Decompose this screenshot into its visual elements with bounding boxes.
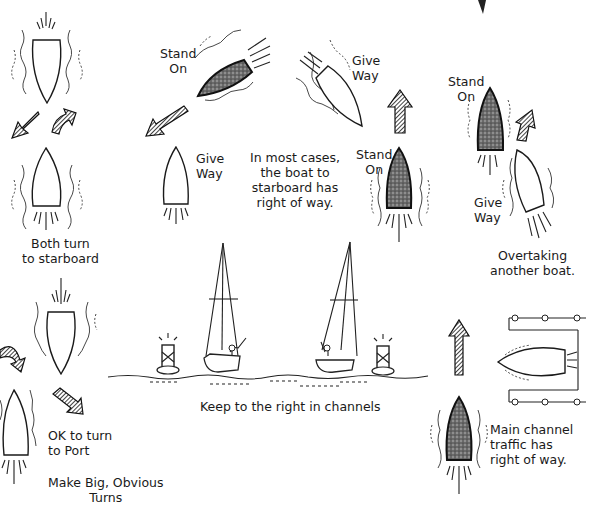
water-line — [108, 375, 428, 379]
boat-give-way-overtaking-icon — [503, 150, 554, 238]
boat-own-icon — [12, 148, 83, 230]
caption-line: right of way. — [490, 452, 573, 467]
give-way-label: Give Way — [196, 151, 224, 181]
give-way-label: Give Way — [474, 195, 502, 225]
sailboat-right-icon — [316, 242, 358, 372]
overtaking-caption: Overtaking another boat. — [490, 248, 575, 278]
head-on-caption: Both turn to starboard — [22, 236, 99, 266]
caption-line: the boat to — [250, 165, 340, 180]
caption-line: Turns — [48, 490, 164, 505]
give-way-label: Give Way — [352, 53, 380, 83]
caption-line: right of way. — [250, 195, 340, 210]
stand-on-label: Stand On — [448, 74, 484, 104]
buoy-right-icon — [372, 334, 394, 375]
pass-arrow-icon — [516, 110, 535, 141]
caption-line: starboard has — [250, 180, 340, 195]
turn-arrow-icon — [52, 109, 76, 134]
turn-arrow-icon — [12, 112, 39, 138]
boat-own-port-icon — [0, 390, 36, 484]
stand-on-label: Stand On — [160, 46, 196, 76]
port-turn-caption: OK to turn to Port — [48, 428, 112, 458]
label-line: Stand — [160, 46, 196, 61]
boat-give-way-left-icon — [164, 147, 189, 224]
caption-line: Both turn — [22, 236, 99, 251]
boat-stand-on-icon — [195, 30, 270, 101]
channel-caption: Keep to the right in channels — [200, 399, 381, 414]
label-line: On — [160, 61, 196, 76]
label-line: Give — [352, 53, 380, 68]
label-line: Way — [352, 68, 380, 83]
label-line: On — [356, 162, 392, 177]
caption-line: OK to turn — [48, 428, 112, 443]
turn-port-arrow-icon — [53, 388, 83, 414]
turn-left-arrow-icon — [0, 347, 25, 372]
caption-line: to starboard — [22, 251, 99, 266]
main-channel-panel — [431, 315, 586, 494]
main-channel-caption: Main channel traffic has right of way. — [490, 422, 573, 467]
label-line: On — [448, 89, 484, 104]
boat-oncoming-icon — [12, 12, 83, 103]
caption-line: In most cases, — [250, 150, 340, 165]
boat-leaving-dock-icon — [498, 345, 577, 380]
crossing-caption: In most cases, the boat to starboard has… — [250, 150, 340, 210]
partial-arrow-icon — [478, 0, 486, 14]
caption-line: to Port — [48, 443, 112, 458]
label-line: Stand — [356, 147, 392, 162]
caption-line: Make Big, Obvious — [48, 475, 164, 490]
boat-main-channel-icon — [431, 397, 488, 494]
caption-line: traffic has — [490, 437, 573, 452]
straight-ahead-arrow-icon — [449, 320, 469, 375]
sailboat-left-icon — [204, 243, 246, 372]
label-line: Stand — [448, 74, 484, 89]
turn-away-arrow-icon — [146, 106, 188, 136]
label-line: Way — [474, 210, 502, 225]
head-on-panel — [12, 12, 83, 230]
caption-line: Main channel — [490, 422, 573, 437]
caption-line: Overtaking — [490, 248, 575, 263]
label-line: Give — [196, 151, 224, 166]
buoy-left-icon — [157, 333, 179, 374]
stand-on-label: Stand On — [356, 147, 392, 177]
caption-line: another boat. — [490, 263, 575, 278]
straight-ahead-arrow-icon — [388, 90, 412, 133]
label-line: Give — [474, 195, 502, 210]
label-line: Way — [196, 166, 224, 181]
channel-panel — [108, 242, 428, 386]
port-turn-subcaption: Make Big, Obvious Turns — [48, 475, 164, 505]
boat-oncoming-port-icon — [34, 278, 97, 374]
